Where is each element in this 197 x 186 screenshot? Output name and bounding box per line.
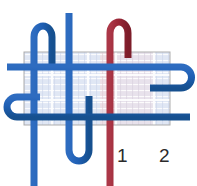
weaving-diagram: 1 2	[0, 0, 197, 186]
thread-label-2: 2	[159, 146, 170, 165]
thread-label-1: 1	[117, 146, 128, 165]
